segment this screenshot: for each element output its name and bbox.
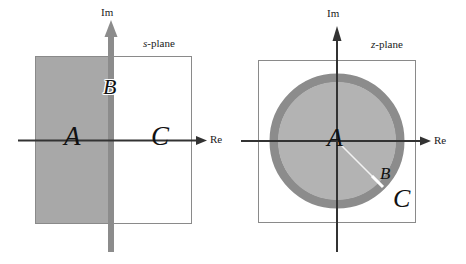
s-plane-graphic: [0, 0, 233, 264]
z-plane-region-c-label: C: [393, 186, 410, 212]
z-plane-graphic: [233, 0, 466, 264]
z-plane-imaginary-axis-arrowhead: [333, 26, 342, 41]
s-plane-region-a-label: A: [64, 123, 81, 150]
s-plane-real-axis-arrowhead: [196, 136, 207, 145]
s-plane-imaginary-axis-label: Im: [101, 6, 113, 18]
s-plane-panel: Im Re s-plane A B C: [0, 0, 233, 264]
z-plane-panel: Im Re z-plane A B C: [233, 0, 466, 264]
z-plane-region-a-label: A: [327, 125, 343, 151]
z-plane-title: z-plane: [371, 38, 403, 50]
z-plane-real-axis-arrowhead: [420, 137, 431, 146]
z-plane-region-b-label: B: [380, 165, 390, 182]
s-plane-region-b-label-text: B: [103, 74, 116, 99]
s-plane-region-b-label: B: [103, 76, 116, 98]
s-plane-title: s-plane: [143, 37, 175, 49]
z-plane-imaginary-axis-label: Im: [327, 7, 339, 19]
s-plane-region-c-label: C: [151, 123, 169, 150]
s-plane-real-axis-label: Re: [210, 133, 222, 145]
s-plane-imaginary-axis-arrowhead: [105, 20, 118, 37]
s-plane-z-plane-mapping-figure: Im Re s-plane A B C: [0, 0, 466, 264]
z-plane-title-rest: -plane: [375, 38, 402, 50]
s-plane-title-rest: -plane: [147, 37, 174, 49]
z-plane-real-axis-label: Re: [434, 134, 446, 146]
